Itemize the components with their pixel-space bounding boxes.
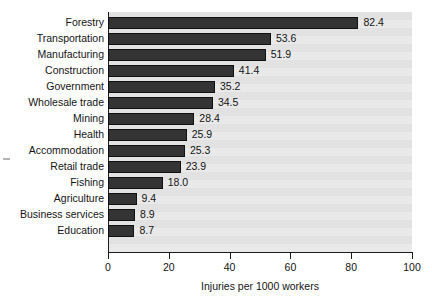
bar [108,17,358,29]
bar-row: 8.9 [108,207,412,223]
category-label: Retail trade [0,160,104,173]
bar [108,97,213,109]
bar [108,49,266,61]
bar-value-label: 41.4 [239,64,259,77]
bar-row: 41.4 [108,63,412,79]
bar [108,193,137,205]
category-label: Manufacturing [0,48,104,61]
bar [108,113,194,125]
x-axis-tick [108,252,109,259]
x-axis-tick-label: 60 [285,261,297,274]
category-label: Mining [0,112,104,125]
bar-row: 34.5 [108,95,412,111]
x-axis-tick-label: 40 [224,261,236,274]
category-label: Accommodation [0,144,104,157]
category-label: Forestry [0,16,104,29]
x-axis-tick [230,252,231,259]
bar-value-label: 25.9 [192,128,212,141]
bar-row: 25.9 [108,127,412,143]
bar-row: 28.4 [108,111,412,127]
bar-row: 18.0 [108,175,412,191]
category-label: Fishing [0,176,104,189]
bar [108,177,163,189]
x-axis-tick [412,252,413,259]
bar-value-label: 9.4 [142,192,157,205]
category-label: Construction [0,64,104,77]
x-axis-tick-label: 20 [163,261,175,274]
x-axis-tick-label: 80 [345,261,357,274]
x-axis-tick [169,252,170,259]
bar [108,145,185,157]
bar-value-label: 25.3 [190,144,210,157]
category-label: Wholesale trade [0,96,104,109]
bar-row: 82.4 [108,15,412,31]
x-axis-tick-label: 100 [403,261,421,274]
category-label: Business services [0,208,104,221]
bar-value-label: 51.9 [271,48,291,61]
bar [108,33,271,45]
category-label: Education [0,224,104,237]
bar-value-label: 8.9 [140,208,155,221]
bar-value-label: 34.5 [218,96,238,109]
category-label: Transportation [0,32,104,45]
bar-value-label: 8.7 [139,224,154,237]
bar [108,129,187,141]
x-axis-tick [290,252,291,259]
bar-row: 8.7 [108,223,412,239]
bar [108,161,181,173]
bar [108,81,215,93]
category-label: Health [0,128,104,141]
bar-row: 23.9 [108,159,412,175]
x-axis-title: Injuries per 1000 workers [108,280,412,293]
bar [108,65,234,77]
bar-row: 35.2 [108,79,412,95]
scan-artifact [3,158,10,160]
x-axis-tick [351,252,352,259]
bar-value-label: 35.2 [220,80,240,93]
x-axis-tick-label: 0 [105,261,111,274]
bar-value-label: 28.4 [199,112,219,125]
bar-row: 51.9 [108,47,412,63]
category-label: Government [0,80,104,93]
bar-row: 25.3 [108,143,412,159]
bar-value-label: 53.6 [276,32,296,45]
bar-chart: 82.453.651.941.435.234.528.425.925.323.9… [0,0,432,305]
category-label: Agriculture [0,192,104,205]
bar-value-label: 18.0 [168,176,188,189]
bar [108,209,135,221]
bar-value-label: 23.9 [186,160,206,173]
bar-row: 53.6 [108,31,412,47]
bar [108,225,134,237]
x-axis-line [108,252,412,253]
bar-row: 9.4 [108,191,412,207]
bar-value-label: 82.4 [363,16,383,29]
